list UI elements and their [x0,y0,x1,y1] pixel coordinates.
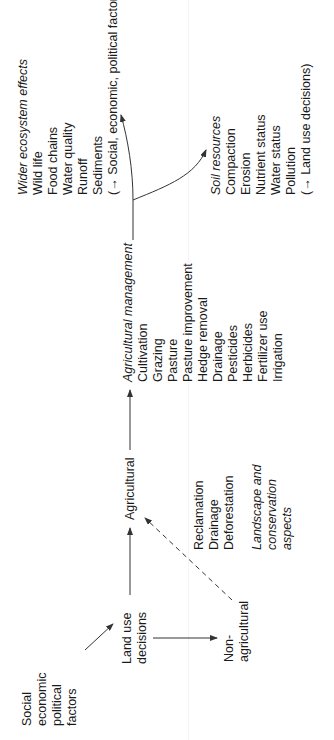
management-item: Herbicides [241,243,256,382]
management-item: Pasture [166,243,181,382]
agricultural-label: Agricultural [123,457,138,520]
management-item: Grazing [151,243,166,382]
ecosystem-feedback-note: (→ Social, economic, political factors) [106,0,121,195]
management-item: Irrigation [271,243,286,382]
ecosystem-item: Food chains [46,0,61,195]
drivers-line: economic [35,673,50,727]
wider-ecosystem-heading: Wider ecosystem effects [16,0,31,195]
soil-item: Compaction [224,64,239,195]
soil-feedback-note: (→ Land use decisions) [299,64,314,195]
non-agricultural-line: agricultural [237,601,252,662]
management-item: Pesticides [226,243,241,382]
agricultural-node: Agricultural [123,457,138,520]
drivers-line: Social [20,673,35,727]
land-use-line: Land use [120,612,135,664]
soil-item: Erosion [239,64,254,195]
soil-item: Water status [269,64,284,195]
arrow-drivers-to-landuse [85,624,113,650]
wider-ecosystem-list: Wider ecosystem effects Wild life Food c… [16,0,121,195]
conversion-item: Drainage [207,476,222,550]
arrow-to-soil-resources [133,150,206,200]
agricultural-management-heading: Agricultural management [121,243,136,382]
landscape-line: conservation [265,465,280,551]
soil-item: Pollution [284,64,299,195]
soil-resources-heading: Soil resources [209,64,224,195]
management-item: Cultivation [136,243,151,382]
management-item: Hedge removal [196,243,211,382]
non-agricultural-line: Non- [222,601,237,662]
ecosystem-item: Water quality [61,0,76,195]
ecosystem-item: Wild life [31,0,46,195]
ecosystem-item: Runoff [76,0,91,195]
management-item: Drainage [211,243,226,382]
landscape-line: Landscape and [250,465,265,551]
ecosystem-item: Sediments [91,0,106,195]
conversion-item: Deforestation [222,476,237,550]
drivers-line: factors [65,673,80,727]
land-use-flow-diagram: Social economic political factors Land u… [0,0,334,740]
soil-resources-list: Soil resources Compaction Erosion Nutrie… [209,64,314,195]
soil-item: Nutrient status [254,64,269,195]
drivers-line: political [50,673,65,727]
landscape-line: aspects [280,465,295,551]
conversion-item: Reclamation [192,476,207,550]
management-item: Pasture improvement [181,243,196,382]
arrow-to-wider-ecosystem [121,115,133,200]
management-item: Fertilizer use [256,243,271,382]
agricultural-management-list: Agricultural management Cultivation Graz… [121,243,286,382]
drivers-block: Social economic political factors [20,673,80,727]
land-use-line: decisions [135,612,150,664]
land-use-decisions: Land use decisions [120,612,150,664]
landscape-conservation-note: Landscape and conservation aspects [250,465,295,551]
conversion-list: Reclamation Drainage Deforestation [192,476,237,550]
non-agricultural-node: Non- agricultural [222,601,252,662]
